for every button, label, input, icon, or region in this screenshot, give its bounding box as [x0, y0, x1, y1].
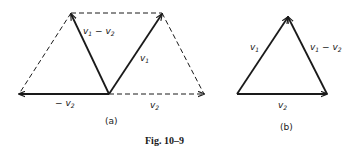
label-v1-minus-v2-b: v1 − v2: [310, 42, 342, 53]
label-neg-v2: − v2: [55, 98, 75, 109]
dashed-left-edge: [19, 13, 71, 94]
v1-arrow: [109, 14, 162, 94]
panel-a: v1 − v2 v1 − v2 v2 (a): [19, 13, 204, 126]
figure-caption: Fig. 10–9: [145, 135, 184, 146]
label-v1-b: v1: [250, 42, 259, 53]
label-v1-minus-v2-a: v1 − v2: [83, 26, 115, 37]
v1-arrow-b: [237, 17, 288, 94]
panel-b-label: (b): [280, 122, 293, 132]
vector-diagram: v1 − v2 v1 − v2 v2 (a) v1 v1 − v2 v2 (b)…: [0, 0, 352, 152]
label-v2-a: v2: [150, 100, 159, 111]
label-v2-b: v2: [278, 100, 287, 111]
label-v1-a: v1: [140, 53, 149, 64]
v1-minus-v2-arrow-b: [288, 17, 327, 94]
panel-b: v1 v1 − v2 v2 (b): [237, 17, 342, 132]
dashed-right-edge: [162, 13, 204, 94]
panel-a-label: (a): [105, 116, 118, 126]
